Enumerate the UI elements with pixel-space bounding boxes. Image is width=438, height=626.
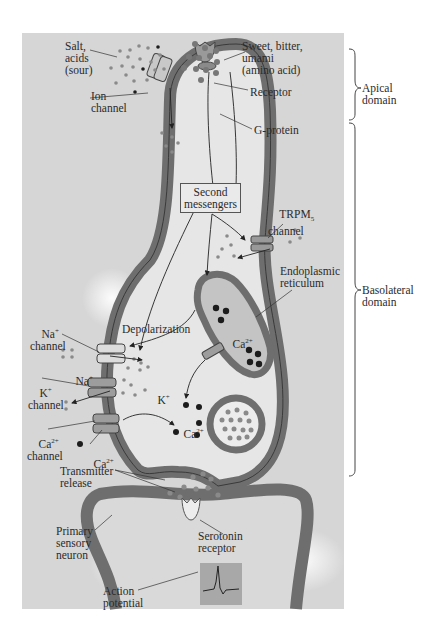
na-channel-label: Na+channel bbox=[30, 313, 66, 364]
primary-sensory-neuron-label: Primary sensory neuron bbox=[56, 525, 93, 561]
second-messengers-label: Second messengers bbox=[180, 183, 241, 213]
sweet-bitter-umami-label: Sweet, bitter, umami (amino acid) bbox=[242, 40, 303, 76]
receptor-label: Receptor bbox=[250, 86, 292, 98]
transmitter-release-label: Transmitter release bbox=[60, 465, 113, 489]
action-potential-trace bbox=[200, 563, 242, 605]
ion-channel-label: Ion channel bbox=[91, 90, 127, 114]
depolarization-label: Depolarization bbox=[122, 323, 190, 335]
g-protein-label: G-protein bbox=[254, 124, 299, 136]
ca-channel-label: Ca2+channel bbox=[27, 423, 63, 474]
endoplasmic-reticulum-label: Endoplasmic reticulum bbox=[280, 265, 340, 289]
basolateral-domain-label: Basolateral domain bbox=[362, 284, 414, 308]
cytosolic-calcium-label: Ca2+ bbox=[172, 413, 204, 452]
serotonin-receptor-label: Serotonin receptor bbox=[198, 530, 243, 554]
trpm5-channel-label: TRPM5channel bbox=[268, 196, 314, 249]
taste-cell-diagram: Salt, acids (sour) Sweet, bitter, umami … bbox=[0, 0, 438, 626]
action-potential-label: Action potential bbox=[103, 585, 143, 609]
salt-acids-label: Salt, acids (sour) bbox=[65, 40, 92, 76]
na-ion-label: Na+ bbox=[64, 360, 93, 399]
na-channel bbox=[97, 344, 125, 363]
k-channel-label: K+channel bbox=[28, 372, 64, 423]
er-calcium-label: Ca2+ bbox=[221, 323, 253, 362]
k-ion-label: K+ bbox=[146, 379, 170, 418]
domain-braces bbox=[349, 49, 361, 476]
apical-domain-label: Apical domain bbox=[362, 82, 397, 106]
synaptic-vesicle bbox=[210, 398, 262, 450]
ca-channel bbox=[93, 414, 119, 433]
